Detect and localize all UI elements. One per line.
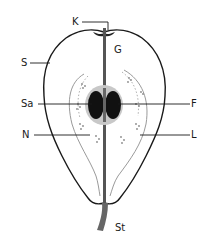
label-sa: Sa xyxy=(21,99,33,109)
label-l: L xyxy=(191,130,197,140)
label-s: S xyxy=(21,58,27,68)
seed-left xyxy=(88,91,104,119)
stem xyxy=(97,203,108,231)
label-k: K xyxy=(72,17,79,27)
label-f: F xyxy=(191,99,197,109)
pear-diagram xyxy=(0,0,207,237)
label-n: N xyxy=(22,130,29,140)
label-st: St xyxy=(115,223,125,233)
seed-right xyxy=(105,91,121,119)
label-g: G xyxy=(114,45,122,55)
